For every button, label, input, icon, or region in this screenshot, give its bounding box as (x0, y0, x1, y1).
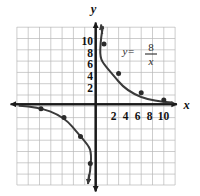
data-point (78, 134, 83, 139)
x-tick-10: 10 (158, 110, 170, 122)
y-tick-4: 4 (87, 70, 93, 82)
data-point (62, 115, 67, 120)
coordinate-plane-svg: 10 8 6 4 2 2 4 6 8 10 y x y = 8 x (0, 0, 200, 196)
y-tick-2: 2 (87, 82, 93, 94)
data-point (88, 161, 93, 166)
equation-equals: = (128, 45, 134, 57)
equation-numerator: 8 (148, 41, 154, 53)
equation-lhs: y (122, 45, 128, 57)
y-tick-8: 8 (87, 47, 93, 59)
x-tick-6: 6 (135, 110, 141, 122)
x-tick-labels: 2 4 6 8 10 (111, 110, 170, 122)
y-tick-labels: 10 8 6 4 2 (82, 35, 94, 94)
x-tick-8: 8 (147, 110, 153, 122)
x-tick-2: 2 (111, 110, 117, 122)
data-point (161, 98, 166, 103)
x-axis-label: x (182, 98, 189, 112)
data-point (116, 71, 121, 76)
y-axis-label: y (89, 2, 97, 16)
equation-denominator: x (148, 55, 154, 67)
y-tick-6: 6 (87, 58, 93, 70)
graph-figure: 10 8 6 4 2 2 4 6 8 10 y x y = 8 x (0, 0, 200, 196)
y-tick-10: 10 (82, 35, 94, 47)
curve-right-branch (100, 25, 172, 103)
data-point (39, 106, 44, 111)
x-tick-4: 4 (123, 110, 129, 122)
equation-annotation: y = 8 x (122, 41, 158, 67)
data-point (139, 90, 144, 95)
data-point (102, 42, 107, 47)
